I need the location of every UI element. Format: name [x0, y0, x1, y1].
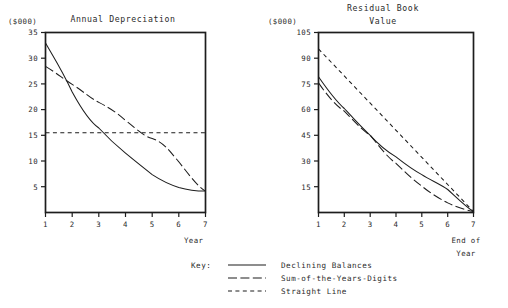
left-ytick-35: 35: [28, 28, 38, 37]
chart-residual-book-value: ($000) Residual Book Value 105 90 75 6: [268, 3, 481, 258]
left-ytick-25: 25: [28, 80, 38, 89]
left-xaxis-label: Year: [184, 236, 204, 245]
right-xtick-6: 6: [445, 220, 450, 229]
left-xtick-5: 5: [150, 220, 155, 229]
legend-key-label: Key:: [191, 261, 211, 270]
legend-label-straight-line: Straight Line: [281, 287, 347, 296]
left-xtick-3: 3: [96, 220, 101, 229]
legend-label-declining-balances: Declining Balances: [281, 261, 372, 270]
right-ytick-60: 60: [301, 105, 311, 114]
left-chart-title: Annual Depreciation: [70, 14, 175, 24]
right-unit-label: ($000): [268, 17, 297, 26]
left-xtick-4: 4: [123, 220, 128, 229]
right-series-declining-balances: [319, 77, 474, 212]
legend-label-sum-of-the-years-digits: Sum-of-the-Years-Digits: [281, 274, 398, 283]
left-ytick-20: 20: [28, 105, 38, 114]
right-xtick-4: 4: [394, 220, 399, 229]
left-series-sum-of-years: [46, 66, 206, 191]
left-plot-frame: [46, 33, 206, 213]
right-series-straight-line: [319, 49, 474, 212]
right-xtick-1: 1: [316, 220, 321, 229]
right-xaxis-label-line1: End of: [451, 236, 480, 245]
left-ytick-5: 5: [33, 183, 38, 192]
right-ytick-45: 45: [301, 131, 311, 140]
right-ytick-75: 75: [301, 80, 311, 89]
right-xtick-7: 7: [471, 220, 476, 229]
right-chart-title-line1: Residual Book: [347, 3, 419, 13]
legend-item-straight-line: Straight Line: [228, 287, 347, 296]
legend-item-sum-of-the-years-digits: Sum-of-the-Years-Digits: [228, 274, 398, 283]
left-ytick-30: 30: [28, 54, 38, 63]
right-chart-title-line2: Value: [369, 16, 397, 26]
left-ytick-15: 15: [28, 131, 38, 140]
right-ytick-105: 105: [296, 28, 311, 37]
left-series-declining-balances: [46, 43, 206, 191]
legend-item-declining-balances: Declining Balances: [228, 261, 372, 270]
right-y-axis: 105 90 75 60 45 30 15: [296, 28, 318, 191]
right-x-axis: 1 2 3 4 5 6 7 End of Year: [316, 213, 480, 259]
right-xtick-3: 3: [368, 220, 373, 229]
figure-canvas: ($000) Annual Depreciation 35 30 25 20: [0, 0, 508, 308]
right-xtick-5: 5: [419, 220, 424, 229]
chart-annual-depreciation: ($000) Annual Depreciation 35 30 25 20: [8, 14, 208, 245]
left-ytick-10: 10: [28, 157, 38, 166]
right-ytick-15: 15: [301, 183, 311, 192]
right-xaxis-label-line2: Year: [456, 249, 476, 258]
legend: Key: Declining Balances Sum-of-the-Years…: [191, 261, 398, 296]
right-plot-frame: [319, 33, 474, 213]
left-x-axis: 1 2 3 4 5 6 7 Year: [43, 213, 208, 246]
left-y-axis: 35 30 25 20 15 10 5: [28, 28, 45, 191]
right-ytick-90: 90: [301, 54, 311, 63]
left-xtick-6: 6: [176, 220, 181, 229]
left-unit-label: ($000): [8, 17, 37, 26]
left-xtick-7: 7: [203, 220, 208, 229]
right-ytick-30: 30: [301, 157, 311, 166]
right-xtick-2: 2: [342, 220, 347, 229]
left-xtick-2: 2: [70, 220, 75, 229]
depreciation-figure: ($000) Annual Depreciation 35 30 25 20: [0, 0, 508, 308]
left-xtick-1: 1: [43, 220, 48, 229]
